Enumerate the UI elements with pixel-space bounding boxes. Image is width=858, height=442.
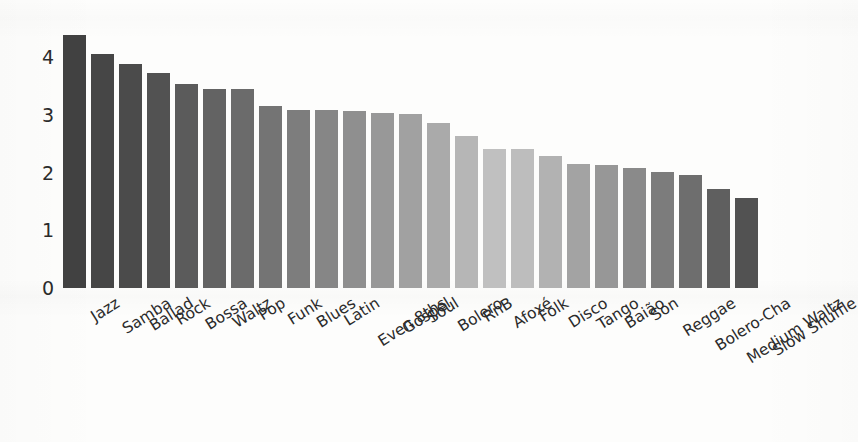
bar — [175, 84, 198, 288]
bar — [455, 136, 478, 288]
bar — [567, 164, 590, 288]
x-tick-label: Jazz — [87, 294, 122, 325]
bar — [595, 165, 618, 288]
bar — [651, 172, 674, 288]
bar — [203, 89, 226, 288]
bar — [399, 114, 422, 288]
bar — [371, 113, 394, 288]
bar — [63, 35, 86, 288]
bar — [315, 110, 338, 288]
bars-layer — [0, 0, 858, 288]
plot-area: log10 quantity 01234 JazzSambaBalladRock… — [0, 0, 858, 442]
bar — [91, 54, 114, 288]
bar — [287, 110, 310, 288]
bar — [147, 73, 170, 288]
bar — [343, 111, 366, 288]
bar — [707, 189, 730, 288]
bar — [679, 175, 702, 288]
x-axis-ticks: JazzSambaBalladRockBossaWaltzPopFunkBlue… — [0, 288, 858, 442]
bar — [539, 156, 562, 288]
chart-page: log10 quantity 01234 JazzSambaBalladRock… — [0, 0, 858, 442]
bar — [231, 89, 254, 288]
bar — [735, 198, 758, 288]
bar — [259, 106, 282, 288]
bar — [623, 168, 646, 288]
bar — [427, 123, 450, 288]
bar — [511, 149, 534, 288]
bar — [119, 64, 142, 288]
bar — [483, 149, 506, 288]
